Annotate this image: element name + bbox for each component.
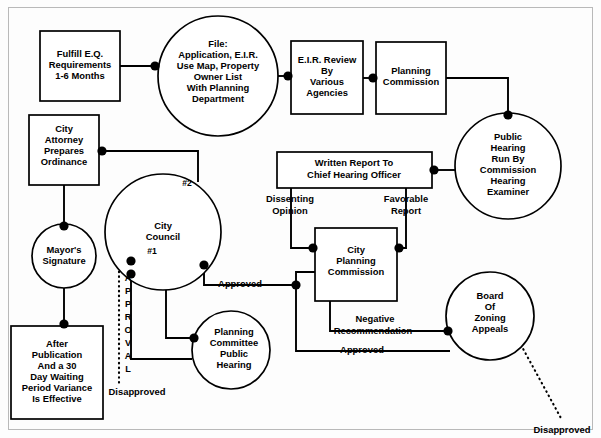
node-after-publication-line-5: Is Effective [32,393,82,404]
approval-char-7: L [125,364,131,374]
connector-dot-public-hearing-input [503,110,512,119]
approval-char-5: V [125,338,132,348]
node-after-publication-line-1: Publication [32,349,83,360]
edge-label-favorable-report-line-0: Favorable [384,193,428,204]
approval-char-3: R [125,312,132,322]
flowchart-diagram: Fulfill E.Q. Requirements 1-6 Months Fil… [0,0,601,438]
node-mayors-signature-line-1: Signature [42,255,85,266]
node-fulfill-eq-line-2: 1-6 Months [55,70,104,81]
node-board-of-zoning-appeals-line-2: Zoning [474,312,506,323]
node-public-hearing-examiner-line-3: Commission [480,164,537,175]
node-city-attorney-line-2: Prepares [44,145,84,156]
node-city-planning-commission-line-1: Planning [336,255,376,266]
edge-label-favorable-report-line-1: Report [391,205,421,216]
edge-disapproved-board-dotted [521,345,562,420]
approval-char-4: O [124,325,131,335]
node-fulfill-eq[interactable]: Fulfill E.Q. Requirements 1-6 Months [40,31,120,101]
connector-dot-city-council-disapproved-output [126,256,135,265]
connector-dot-mayors-signature-input [59,221,68,230]
node-after-publication-line-3: Day Waiting [30,371,84,382]
node-planning-commission[interactable]: Planning Commission [376,42,446,114]
edge-label-disapproved-left: Disapproved [109,386,166,397]
node-eir-review-line-0: E.I.R. Review [298,54,357,65]
node-file-application-line-3: Owner List [194,71,242,82]
node-city-planning-commission-line-0: City [347,244,365,255]
node-eir-review[interactable]: E.I.R. Review By Various Agencies [291,41,363,114]
edge-label-approved-board: Approved [340,344,384,355]
edge-label-negative-recommendation-line-0: Negative [355,313,394,324]
edge-city-council-to-planning-committee [166,290,192,338]
node-public-hearing-examiner-line-1: Hearing [491,142,526,153]
node-board-of-zoning-appeals-line-3: Appeals [472,323,508,334]
node-after-publication[interactable]: After Publication And a 30 Day Waiting P… [11,326,103,419]
edge-label-negative-recommendation-line-1: Recommendation [334,325,413,336]
node-city-council[interactable]: City Council [105,174,221,290]
connector-dot-planning-commission-input [368,73,377,82]
connector-dot-after-publication-input [59,319,68,328]
node-after-publication-line-0: After [46,338,68,349]
node-fulfill-eq-line-1: Requirements [49,59,112,70]
node-city-council-line-0: City [154,220,172,231]
connector-dot-city-attorney-output [97,146,106,155]
node-file-application-line-0: File: [208,38,227,49]
node-after-publication-line-2: And a 30 [37,360,76,371]
node-board-of-zoning-appeals-line-0: Board [476,290,503,301]
node-public-hearing-examiner-line-2: Run By [492,153,526,164]
node-planning-committee-hearing-line-0: Planning [214,326,254,337]
approval-char-0: A [125,273,132,283]
connector-dot-approved-junction [291,280,300,289]
connector-dot-planning-committee-input [189,333,198,342]
node-fulfill-eq-line-0: Fulfill E.Q. [57,48,103,59]
approval-char-2: P [125,299,131,309]
node-board-of-zoning-appeals-line-1: Of [485,301,496,312]
node-city-council-line-1: Council [146,231,180,242]
node-eir-review-line-3: Agencies [306,87,348,98]
edge-label-approved-council: Approved [218,278,262,289]
node-planning-committee-hearing[interactable]: Planning Committee Public Hearing [192,311,270,389]
node-file-application[interactable]: File: Application, E.I.R. Use Map, Prope… [158,16,278,136]
node-planning-commission-line-1: Commission [383,76,440,87]
connector-dot-city-planning-commission-right [394,243,403,252]
node-planning-committee-hearing-line-2: Public [220,348,248,359]
connector-dot-written-report-input [429,165,438,174]
node-city-planning-commission[interactable]: City Planning Commission [315,228,397,301]
node-written-report-line-1: Chief Hearing Officer [307,169,401,180]
approval-char-6: A [125,351,132,361]
approval-char-1: P [125,286,131,296]
node-eir-review-line-2: Various [310,76,344,87]
connector-dot-eir-input [283,71,292,80]
marker-council-1: #1 [147,246,157,256]
connector-dot-file-input [150,61,159,70]
node-file-application-line-2: Use Map, Property [177,60,260,71]
node-public-hearing-examiner-line-5: Examiner [487,186,530,197]
marker-council-2: #2 [182,178,192,188]
node-city-attorney-line-1: Attorney [45,134,84,145]
node-written-report[interactable]: Written Report To Chief Hearing Officer [277,152,432,188]
node-file-application-line-4: With Planning [187,82,250,93]
node-after-publication-line-4: Period Variance [22,382,92,393]
edge-label-disapproved-right: Disapproved [534,424,591,435]
node-written-report-line-0: Written Report To [315,157,394,168]
node-planning-committee-hearing-line-1: Committee [210,337,258,348]
node-planning-committee-hearing-line-3: Hearing [217,359,252,370]
connector-dot-board-input [443,326,452,335]
node-file-application-line-1: Application, E.I.R. [178,49,258,60]
node-board-of-zoning-appeals[interactable]: Board Of Zoning Appeals [446,272,534,360]
connector-dot-city-planning-commission-left [308,243,317,252]
node-public-hearing-examiner-line-0: Public [494,131,522,142]
node-file-application-line-5: Department [192,93,244,104]
node-public-hearing-examiner[interactable]: Public Hearing Run By Commission Hearing… [455,113,561,219]
node-city-attorney-line-3: Ordinance [41,156,87,167]
node-public-hearing-examiner-line-4: Hearing [491,175,526,186]
node-city-attorney[interactable]: City Attorney Prepares Ordinance [29,115,99,185]
edge-label-dissenting-opinion-line-1: Opinion [272,205,308,216]
node-city-attorney-line-0: City [55,123,73,134]
edge-label-dissenting-opinion-line-0: Dissenting [266,193,314,204]
flowchart-page: Fulfill E.Q. Requirements 1-6 Months Fil… [0,0,601,438]
node-planning-commission-line-0: Planning [391,65,431,76]
edge-planning-commission-to-public-hearing [446,78,508,113]
node-mayors-signature-line-0: Mayor's [46,244,81,255]
node-eir-review-line-1: By [321,65,334,76]
node-city-planning-commission-line-2: Commission [328,266,385,277]
node-mayors-signature[interactable]: Mayor's Signature [32,224,96,288]
